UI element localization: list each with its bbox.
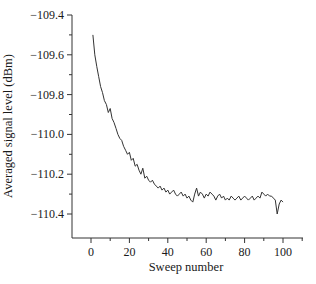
y-tick-label: −109.6	[30, 48, 64, 62]
axes	[72, 15, 303, 238]
x-tick-label: 40	[162, 245, 174, 259]
x-axis-title: Sweep number	[149, 260, 224, 274]
tick-labels: −109.4−109.6−109.8−110.0−110.2−110.40204…	[30, 8, 292, 259]
x-tick-label: 80	[239, 245, 251, 259]
y-axis-title: Averaged signal level (dBm)	[1, 54, 15, 198]
x-tick-label: 60	[200, 245, 212, 259]
x-tick-label: 20	[123, 245, 135, 259]
y-tick-label: −109.4	[30, 8, 64, 22]
y-tick-label: −110.2	[31, 167, 64, 181]
line-chart: −109.4−109.6−109.8−110.0−110.2−110.40204…	[0, 0, 316, 284]
x-tick-label: 100	[274, 245, 292, 259]
ticks	[67, 15, 302, 243]
x-tick-label: 0	[88, 245, 94, 259]
data-line	[93, 35, 283, 214]
y-tick-label: −109.8	[30, 88, 64, 102]
series-layer	[93, 35, 283, 214]
y-tick-label: −110.0	[31, 127, 64, 141]
chart-canvas: −109.4−109.6−109.8−110.0−110.2−110.40204…	[0, 0, 316, 284]
y-tick-label: −110.4	[31, 207, 64, 221]
